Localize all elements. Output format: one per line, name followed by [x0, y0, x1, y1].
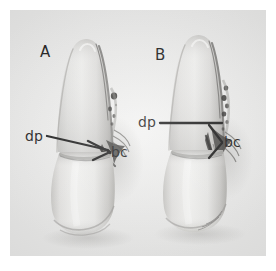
annotation-label-dp-a: dp	[25, 129, 43, 143]
panel-letter-b: B	[155, 48, 165, 63]
specimen-photograph: A B dp bc dp bc	[10, 10, 266, 256]
annotation-label-bc-a: bc	[111, 145, 128, 159]
panel-letter-a: A	[40, 45, 50, 60]
figure-page: A B dp bc dp bc	[0, 0, 276, 271]
annotation-label-bc-b: bc	[224, 135, 241, 149]
annotation-label-dp-b: dp	[138, 115, 156, 129]
